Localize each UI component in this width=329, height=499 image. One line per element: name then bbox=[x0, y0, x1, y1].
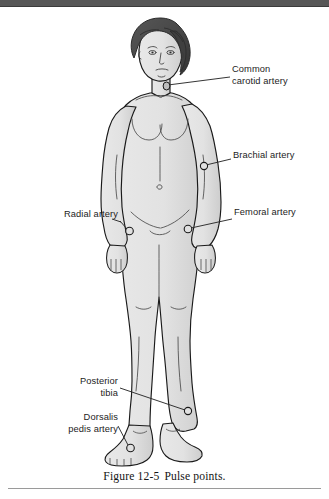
figure-title: Pulse points. bbox=[164, 470, 225, 483]
figure-caption: Figure 12-5Pulse points. bbox=[0, 470, 329, 483]
pulse-dot-dorsalis-pedis bbox=[127, 444, 135, 452]
label-femoral-artery: Femoral artery bbox=[234, 207, 296, 219]
footer-rule bbox=[8, 488, 321, 489]
page-edge-scan-band bbox=[0, 0, 329, 7]
left-hand bbox=[107, 245, 128, 273]
label-dorsalis-pedis-artery: Dorsalis pedis artery bbox=[22, 412, 118, 435]
right-pupil bbox=[169, 51, 171, 53]
left-pupil bbox=[151, 51, 153, 53]
body-figure bbox=[101, 25, 221, 437]
pulse-dot-brachial bbox=[200, 162, 207, 169]
pulse-dot-posterior-tibia bbox=[184, 407, 191, 414]
pulse-dot-radial bbox=[126, 227, 134, 235]
page: Common carotid artery Brachial artery Fe… bbox=[0, 0, 329, 499]
label-posterior-tibia: Posterior tibia bbox=[38, 376, 118, 399]
leader-line-carotid bbox=[168, 77, 230, 85]
pulse-dot-carotid bbox=[163, 82, 170, 90]
right-hand bbox=[195, 245, 216, 273]
pulse-dot-femoral bbox=[184, 225, 192, 233]
label-radial-artery: Radial artery bbox=[26, 209, 118, 221]
label-common-carotid-artery: Common carotid artery bbox=[232, 64, 288, 87]
figure-number: Figure 12-5 bbox=[103, 470, 159, 483]
marker-common-carotid-artery bbox=[163, 77, 230, 90]
label-brachial-artery: Brachial artery bbox=[233, 150, 294, 162]
